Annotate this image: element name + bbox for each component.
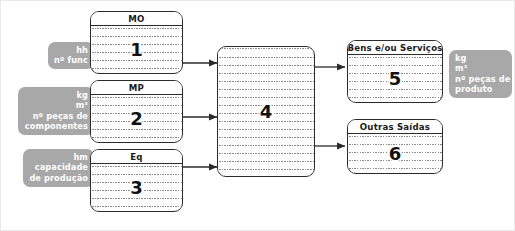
input-chip-mp: kg m³ nº peças de componentes xyxy=(18,87,94,135)
chip-line: m³ xyxy=(76,100,88,110)
note-header-outras-saidas: Outras Saídas xyxy=(348,120,442,134)
chip-line: kg xyxy=(455,53,467,63)
note-header-mp: MP xyxy=(91,81,182,95)
note-body-outras-saidas: 6 xyxy=(348,134,442,174)
note-box-eq: Eq 3 xyxy=(90,149,183,212)
chip-line: nº func xyxy=(54,55,88,65)
chip-line: m³ xyxy=(455,63,467,73)
chip-line: hm xyxy=(73,152,88,162)
note-body-mo: 1 xyxy=(91,26,182,74)
note-number-mp: 2 xyxy=(91,110,182,128)
note-number-bens-servicos: 5 xyxy=(348,70,442,88)
note-header-mo: MO xyxy=(91,12,182,26)
chip-line: capacidade xyxy=(35,162,88,172)
chip-line: produto xyxy=(455,84,492,94)
note-number-outras-saidas: 6 xyxy=(348,145,442,163)
note-body-transformation: 4 xyxy=(218,47,314,176)
chip-line: hh xyxy=(76,45,88,55)
note-box-mo: MO 1 xyxy=(90,11,183,74)
input-chip-eq: hm capacidade de produção xyxy=(23,149,94,187)
note-number-eq: 3 xyxy=(91,179,182,197)
chip-line: de produção xyxy=(29,173,88,183)
chip-line: nº peças de xyxy=(33,111,88,121)
note-header-bens-servicos: Bens e/ou Serviços xyxy=(348,41,442,55)
note-box-transformation: 4 xyxy=(217,46,315,177)
note-body-mp: 2 xyxy=(91,95,182,143)
note-number-transformation: 4 xyxy=(218,103,314,121)
note-box-outras-saidas: Outras Saídas 6 xyxy=(347,119,443,174)
input-chip-mo: hh nº func xyxy=(48,42,94,69)
process-flow-diagram: hh nº func kg m³ nº peças de componentes… xyxy=(0,0,515,231)
chip-line: componentes xyxy=(25,121,88,131)
note-body-bens-servicos: 5 xyxy=(348,55,442,103)
note-box-mp: MP 2 xyxy=(90,80,183,143)
note-body-eq: 3 xyxy=(91,164,182,212)
chip-line: kg xyxy=(76,90,88,100)
note-box-bens-servicos: Bens e/ou Serviços 5 xyxy=(347,40,443,103)
chip-line: nº peças de xyxy=(455,74,510,84)
note-number-mo: 1 xyxy=(91,41,182,59)
output-chip-produto: kg m³ nº peças de produto xyxy=(449,50,512,98)
note-header-eq: Eq xyxy=(91,150,182,164)
